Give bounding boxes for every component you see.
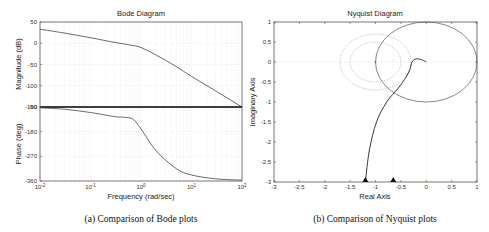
bode-chart: Bode Diagram 500-50-100-150-90-180-270-3… (14, 9, 247, 225)
magnitude-y-label: Magnitude (dB) (14, 38, 23, 90)
bode-y-ticks: 500-50-100-150-90-180-270-360 (25, 19, 42, 184)
magnitude-tick-label: 50 (30, 19, 37, 25)
phase-tick-label: -270 (25, 153, 38, 159)
imaginary-tick-label: 0.5 (263, 39, 272, 45)
nyquist-chart: Nyquist Diagram 10.50-0.5-1-1.5-2-2.5-3 … (248, 9, 479, 225)
imaginary-tick-label: -0.5 (261, 79, 272, 85)
nyquist-caption: (b) Comparison of Nyquist plots (313, 214, 437, 225)
nyquist-x-ticks: -3-2.5-2-1.5-1-0.500.51 (271, 22, 479, 190)
nyquist-grid (274, 22, 477, 182)
phase-tick-label: -90 (28, 104, 37, 110)
real-tick-label: 0 (425, 184, 429, 190)
real-tick-label: -1.5 (345, 184, 356, 190)
real-tick-label: -1 (373, 184, 379, 190)
imaginary-tick-label: -2.5 (261, 159, 272, 165)
real-tick-label: 0.5 (447, 184, 456, 190)
imaginary-tick-label: -1.5 (261, 119, 272, 125)
magnitude-tick-label: -50 (28, 62, 37, 68)
bode-grid (40, 22, 242, 181)
imaginary-tick-label: -2 (266, 139, 272, 145)
imaginary-tick-label: 0 (268, 59, 272, 65)
bode-title: Bode Diagram (117, 9, 165, 18)
triangle-marker (390, 177, 396, 182)
phase-y-label: Phase (deg) (14, 123, 23, 164)
nyquist-x-label: Real Axis (359, 192, 391, 201)
real-tick-label: -2.5 (294, 184, 305, 190)
frequency-tick-label: 102 (237, 183, 247, 191)
bode-caption: (a) Comparison of Bode plots (85, 214, 198, 225)
figure: Bode Diagram 500-50-100-150-90-180-270-3… (0, 0, 489, 232)
imaginary-tick-label: 1 (268, 19, 272, 25)
bode-x-label: Frequency (rad/sec) (107, 192, 175, 201)
frequency-tick-label: 101 (187, 183, 197, 191)
real-tick-label: -3 (271, 184, 277, 190)
triangle-marker (362, 177, 368, 182)
nyquist-y-ticks: 10.50-0.5-1-1.5-2-2.5-3 (261, 19, 477, 185)
imaginary-tick-label: -1 (266, 99, 272, 105)
frequency-tick-label: 10-1 (85, 183, 96, 191)
frequency-tick-label: 10-2 (35, 183, 46, 191)
phase-tick-label: -180 (25, 129, 38, 135)
frequency-tick-label: 100 (136, 183, 146, 191)
real-tick-label: -0.5 (396, 184, 407, 190)
nyquist-markers (362, 177, 396, 182)
nyquist-title: Nyquist Diagram (347, 9, 402, 18)
critical-point-marker (375, 61, 377, 63)
nyquist-curve (365, 59, 426, 182)
magnitude-tick-label: -100 (25, 83, 38, 89)
bode-x-ticks: 10-210-1100101102 (35, 183, 247, 191)
real-tick-label: 1 (475, 184, 479, 190)
magnitude-tick-label: 0 (34, 40, 38, 46)
nyquist-axes-frame (274, 22, 477, 182)
real-tick-label: -2 (322, 184, 328, 190)
nyquist-y-label: Imaginary Axis (248, 77, 257, 126)
